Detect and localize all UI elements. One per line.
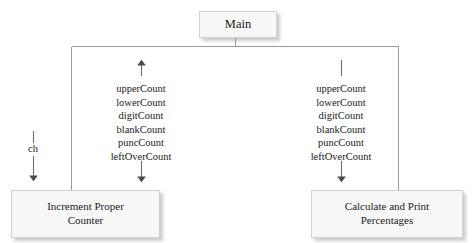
structure-chart: Main Increment Proper Counter Calculate …: [0, 0, 474, 243]
module-main-label: Main: [221, 17, 255, 33]
module-calculate-and-print-percentages[interactable]: Calculate and Print Percentages: [311, 190, 463, 238]
data-couple-label: blankCount: [261, 123, 421, 137]
data-couple-label: puncCount: [261, 136, 421, 150]
data-couple-label: leftOverCount: [261, 150, 421, 164]
data-couple-label: digitCount: [261, 109, 421, 123]
data-couple-label: lowerCount: [261, 96, 421, 110]
data-couple-label: upperCount: [61, 82, 221, 96]
data-couples-right: upperCount lowerCount digitCount blankCo…: [261, 82, 421, 163]
data-couple-ch-label: ch: [13, 143, 53, 154]
module-increment-proper-counter-label: Increment Proper Counter: [43, 200, 128, 228]
module-main[interactable]: Main: [199, 11, 277, 38]
data-couple-label: blankCount: [61, 123, 221, 137]
data-couple-label: digitCount: [61, 109, 221, 123]
data-couples-left: upperCount lowerCount digitCount blankCo…: [61, 82, 221, 163]
data-couple-label: upperCount: [261, 82, 421, 96]
module-calculate-and-print-percentages-label: Calculate and Print Percentages: [341, 200, 433, 228]
data-couple-label: puncCount: [61, 136, 221, 150]
data-couple-label: lowerCount: [61, 96, 221, 110]
module-increment-proper-counter[interactable]: Increment Proper Counter: [11, 190, 160, 238]
data-couple-label: leftOverCount: [61, 150, 221, 164]
